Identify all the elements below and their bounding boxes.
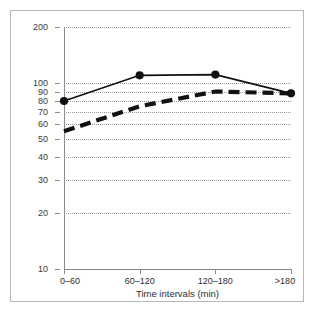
y-axis-tick (55, 157, 60, 158)
y-axis-tick-label: 20 (38, 208, 48, 218)
solid-line-series (64, 75, 291, 101)
y-axis-tick-label: 50 (38, 134, 48, 144)
x-axis-title: Time intervals (min) (64, 288, 291, 299)
y-axis-tick-labels: 200100908070605040302010 (24, 27, 60, 269)
y-axis-tick-label: 70 (38, 107, 48, 117)
y-axis-tick (55, 27, 60, 28)
y-axis-tick (55, 83, 60, 84)
y-axis-tick-label: 200 (33, 22, 48, 32)
data-point-marker (136, 71, 144, 79)
y-axis-tick (55, 180, 60, 181)
x-axis-tick (215, 269, 216, 274)
y-axis-tick-label: 60 (38, 119, 48, 129)
x-axis-tick (140, 269, 141, 274)
x-axis-tick-label: 120–180 (198, 276, 233, 286)
y-axis-tick (55, 92, 60, 93)
y-axis-tick (55, 139, 60, 140)
x-axis-tick-label: 60–120 (125, 276, 155, 286)
x-axis-tick (64, 269, 65, 274)
figure-canvas: Log(PVC) 200100908070605040302010 0–6060… (0, 0, 319, 315)
data-point-marker (211, 70, 219, 78)
x-axis-tick-label: 0–60 (60, 276, 80, 286)
series-layer (64, 27, 291, 269)
y-axis-tick (55, 213, 60, 214)
y-axis-tick-label: 40 (38, 152, 48, 162)
x-axis-tick-label: >180 (275, 276, 295, 286)
plot-area (64, 27, 291, 269)
y-axis-tick-label: 10 (38, 264, 48, 274)
y-axis-tick-label: 30 (38, 175, 48, 185)
y-axis-tick (55, 269, 60, 270)
y-axis-tick-label: 80 (38, 96, 48, 106)
dashed-line-series (64, 92, 291, 132)
y-axis-tick (55, 124, 60, 125)
data-point-marker (287, 89, 295, 97)
y-axis-tick (55, 112, 60, 113)
y-axis-tick (55, 101, 60, 102)
x-axis-tick (291, 269, 292, 274)
y-axis-tick-label: 90 (38, 87, 48, 97)
data-point-marker (60, 97, 68, 105)
